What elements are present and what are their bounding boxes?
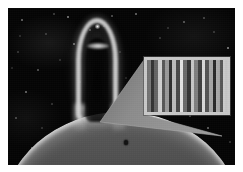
inset-stripe [223, 60, 227, 112]
magnified-inset-panel [144, 57, 230, 115]
inset-stripe-pattern [147, 60, 227, 112]
photo-plate [8, 8, 235, 165]
loop-apex-knot [94, 24, 101, 29]
figure-page [0, 0, 243, 172]
loop-cavity [85, 38, 109, 122]
loop-core-blob [87, 43, 109, 49]
